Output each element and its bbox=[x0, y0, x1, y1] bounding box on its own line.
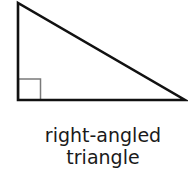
triangle-outline bbox=[18, 3, 185, 100]
caption-line-2: triangle bbox=[0, 146, 188, 168]
right-angle-marker bbox=[19, 79, 41, 100]
caption-line-1: right-angled bbox=[0, 124, 188, 146]
right-triangle-figure bbox=[0, 0, 188, 110]
